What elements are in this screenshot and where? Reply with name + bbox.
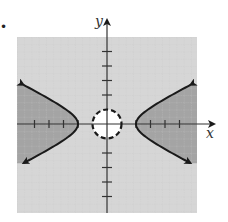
y-axis-label: y: [94, 13, 104, 29]
x-axis-label: x: [206, 125, 214, 141]
problem-marker: •: [0, 20, 7, 34]
inequality-graph: • x y: [0, 0, 228, 222]
